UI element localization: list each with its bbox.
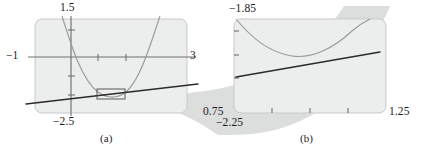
- panel-b-bottom-label: −2.25: [216, 117, 243, 129]
- zoom-comparison-figure: 1.5 −1 3 −2.5 (a) −1.85 0.75 −2.25 1.25 …: [0, 0, 423, 152]
- panel-a-bottom-label: −2.5: [53, 116, 74, 128]
- panel-a-caption: (a): [100, 133, 113, 144]
- panel-b-background: [234, 19, 386, 113]
- panel-b-caption: (b): [300, 133, 313, 144]
- panel-a-left-label: −1: [6, 50, 18, 62]
- panel-a: [26, 16, 198, 116]
- panel-b-right-label: 1.25: [389, 106, 410, 118]
- panel-b-top-label: −1.85: [229, 3, 256, 15]
- panel-b: [234, 19, 386, 113]
- figure-canvas: [0, 0, 423, 152]
- panel-a-top-label: 1.5: [60, 2, 75, 14]
- panel-a-right-label: 3: [190, 50, 196, 62]
